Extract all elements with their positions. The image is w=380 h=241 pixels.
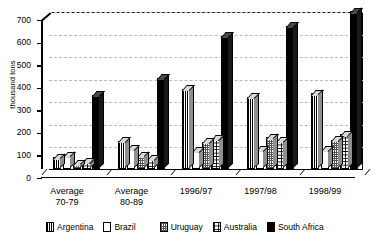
legend-label: South Africa — [278, 222, 324, 232]
category-label-line1: Average — [39, 186, 95, 197]
bar-side-face — [318, 90, 323, 168]
legend-item-argentina[interactable]: Argentina — [46, 222, 93, 232]
bar-argentina — [53, 157, 61, 169]
chart-legend: ArgentinaBrazilUruguayAustraliaSouth Afr… — [46, 222, 324, 232]
y-axis-tick — [37, 43, 42, 44]
y-axis-tick-label: 100 — [5, 151, 31, 160]
bar-group — [247, 11, 305, 169]
bar-side-face — [283, 138, 288, 168]
legend-swatch-icon — [160, 222, 168, 232]
bar-side-face — [219, 135, 224, 168]
category-label-line1: 1998/99 — [297, 186, 353, 197]
category-label-line1: 1997/98 — [233, 186, 289, 197]
y-axis-tick — [37, 178, 42, 179]
bar-side-face — [99, 91, 104, 168]
bar-side-face — [338, 137, 343, 168]
category-label-line2: 80-89 — [104, 197, 160, 208]
y-axis-tick-label: 400 — [5, 83, 31, 92]
y-axis-tick-label: 200 — [5, 128, 31, 137]
category-label-line1: 1996/97 — [168, 186, 224, 197]
y-axis-tick-label: 0 — [5, 174, 31, 183]
chart-floor — [41, 169, 363, 178]
bar-side-face — [273, 134, 278, 168]
y-axis-tick — [37, 88, 42, 89]
y-axis-tick — [37, 110, 42, 111]
bar-side-face — [164, 75, 169, 168]
x-axis-category-label: Average70-79 — [39, 186, 95, 207]
bar-side-face — [209, 139, 214, 168]
bar-argentina — [182, 89, 190, 169]
plot-area: 0100200300400500600700 — [41, 12, 363, 178]
bar-argentina — [247, 97, 255, 169]
bar-group — [311, 11, 369, 169]
category-label-line1: Average — [104, 186, 160, 197]
legend-swatch-icon — [103, 222, 111, 232]
category-label-line2: 70-79 — [39, 197, 95, 208]
x-axis-category-label: Average80-89 — [104, 186, 160, 207]
legend-label: Australia — [224, 222, 257, 232]
legend-label: Brazil — [114, 222, 135, 232]
bar-side-face — [357, 8, 362, 168]
y-axis-tick-label: 600 — [5, 38, 31, 47]
x-axis-category-label: 1997/98 — [233, 186, 289, 197]
bar-group — [182, 11, 240, 169]
legend-swatch-icon — [213, 222, 221, 232]
legend-item-brazil[interactable]: Brazil — [103, 222, 135, 232]
y-axis-tick — [37, 65, 42, 66]
y-axis-tick — [37, 133, 42, 134]
y-axis-tick-label: 500 — [5, 61, 31, 70]
bar-group — [118, 11, 176, 169]
legend-swatch-icon — [46, 222, 54, 232]
y-axis-tick-label: 700 — [5, 16, 31, 25]
y-axis-tick-label: 300 — [5, 106, 31, 115]
y-axis-tick — [37, 20, 42, 21]
x-axis-separator — [364, 169, 370, 175]
x-axis-category-label: 1998/99 — [297, 186, 353, 197]
legend-item-uruguay[interactable]: Uruguay — [160, 222, 203, 232]
bar-side-face — [228, 33, 233, 168]
legend-label: Argentina — [57, 222, 93, 232]
bar-side-face — [125, 138, 130, 168]
bar-argentina — [118, 141, 126, 169]
legend-item-south-africa[interactable]: South Africa — [267, 222, 324, 232]
bar-group — [53, 11, 111, 169]
legend-label: Uruguay — [171, 222, 203, 232]
bar-argentina — [311, 93, 319, 169]
bar-chart: thousand tons 0100200300400500600700 Ave… — [0, 0, 380, 241]
bar-side-face — [254, 94, 259, 168]
legend-swatch-icon — [267, 222, 275, 232]
y-axis-tick — [37, 155, 42, 156]
bar-side-face — [189, 86, 194, 168]
bar-side-face — [293, 23, 298, 168]
legend-item-australia[interactable]: Australia — [213, 222, 257, 232]
x-axis-category-label: 1996/97 — [168, 186, 224, 197]
bar-side-face — [348, 131, 353, 168]
